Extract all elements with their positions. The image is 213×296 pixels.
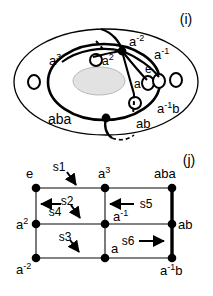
loop-ab — [129, 97, 141, 109]
dashed-lower — [133, 94, 134, 113]
vertex-aba — [168, 184, 177, 193]
vertex-label-a3: a3 — [98, 165, 110, 181]
label-a-minus-one-b: a-1b — [157, 100, 179, 116]
vertex-e — [32, 184, 41, 193]
arrow-label-s5: s5 — [140, 197, 153, 211]
vertex-a — [101, 254, 110, 263]
label-a-squared: a2 — [102, 52, 114, 68]
vertex-ab — [168, 220, 177, 229]
label-a-minus-one: a-1 — [154, 46, 169, 62]
figure-canvas: (i) a3 a-2 a-1 a2 e a a-1b aba ab — [0, 0, 213, 296]
label-identity-e: e — [145, 62, 152, 76]
vertex-label-a-minus2-exp: -2 — [23, 261, 31, 271]
arrow-label-s6: s6 — [122, 234, 135, 248]
label-a-minus-one-exp: -1 — [161, 46, 169, 56]
arrow-s3-shaft — [70, 240, 79, 252]
vertex-label-a2: a2 — [16, 216, 28, 232]
arrow-label-s3: s3 — [59, 230, 72, 244]
arrow-label-s2: s2 — [61, 194, 74, 208]
label-a-minus-two: a-2 — [129, 33, 144, 49]
vertex-a-inv-b — [168, 254, 177, 263]
label-a-cubed: a3 — [49, 52, 61, 68]
vertex-a-inv — [101, 220, 110, 229]
label-a-inv-b-suffix: b — [172, 101, 179, 116]
label-aba: aba — [48, 111, 72, 127]
vertex-label-a-inv: a-1 — [113, 208, 128, 224]
vertex-label-a: a — [111, 241, 119, 256]
thread-top — [101, 29, 122, 51]
vertex-a-minus2 — [32, 254, 41, 263]
vertex-label-e: e — [26, 166, 33, 181]
loop-outer-left — [28, 75, 40, 89]
label-a-element: a — [134, 77, 141, 91]
label-a-inv-b-exp: -1 — [164, 100, 172, 110]
panel-i-group: (i) a3 a-2 a-1 a2 e a a-1b aba ab — [14, 11, 198, 140]
vertex-a3 — [101, 184, 110, 193]
vertex-label-a-inv-b-exp: -1 — [167, 262, 175, 272]
vertex-label-a-inv-b-suffix: b — [175, 263, 182, 278]
label-a-cubed-exp: 3 — [56, 52, 61, 62]
label-ab: ab — [136, 116, 150, 131]
vertex-label-a-minus2: a-2 — [16, 261, 31, 277]
arrow-label-s1: s1 — [53, 160, 66, 174]
central-hole — [73, 67, 125, 95]
panel-i-tag: (i) — [180, 11, 192, 27]
vertex-label-a-inv-b: a-1b — [160, 262, 182, 278]
panel-j-tag: (j) — [183, 152, 195, 168]
panel-j-group: (j) e a3 aba a2 a-1 ab a-2 a a-1b s1 s2 … — [16, 152, 195, 278]
vertex-label-ab: ab — [178, 217, 192, 232]
arrow-s1-shaft — [67, 172, 76, 185]
arrow-label-s4: s4 — [49, 205, 62, 219]
label-a-minus-two-exp: -2 — [136, 33, 144, 43]
label-a-squared-exp: 2 — [109, 52, 114, 62]
loop-outer-right — [170, 73, 182, 87]
vertex-a2 — [32, 220, 41, 229]
vertex-label-a2-exp: 2 — [23, 216, 28, 226]
vertex-label-a-inv-exp: -1 — [120, 208, 128, 218]
dashed-arrow-bottom — [112, 135, 134, 140]
vertex-label-a3-exp: 3 — [105, 165, 110, 175]
vertex-label-aba: aba — [154, 166, 176, 181]
